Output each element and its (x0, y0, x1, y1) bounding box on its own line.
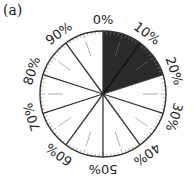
percent-label: 30% (163, 101, 186, 133)
percent-label: 50% (89, 162, 118, 177)
percent-label: 40% (131, 140, 163, 169)
radial-line (66, 43, 103, 94)
radial-line (66, 94, 103, 145)
radial-line (103, 94, 140, 145)
radial-line (43, 75, 103, 94)
half-tick (59, 62, 71, 71)
radial-line (103, 94, 163, 113)
minor-tick (84, 149, 86, 154)
minor-tick (52, 57, 56, 60)
percent-label: 60% (43, 140, 75, 169)
percent-label: 20% (163, 55, 186, 87)
half-tick (86, 132, 91, 146)
minor-tick (121, 149, 123, 154)
minor-tick (84, 34, 86, 39)
percentage-dial: 0%10%20%30%40%50%60%70%80%90% (0, 0, 193, 190)
percent-label: 0% (93, 12, 114, 27)
half-tick (86, 42, 91, 56)
minor-tick (52, 128, 56, 131)
minor-tick (150, 128, 154, 131)
percent-label: 70% (20, 101, 43, 133)
half-tick (135, 118, 147, 127)
radial-line (43, 94, 103, 113)
half-tick (59, 118, 71, 127)
percent-label: 80% (20, 55, 43, 87)
percent-label: 90% (43, 19, 75, 48)
half-tick (115, 132, 120, 146)
